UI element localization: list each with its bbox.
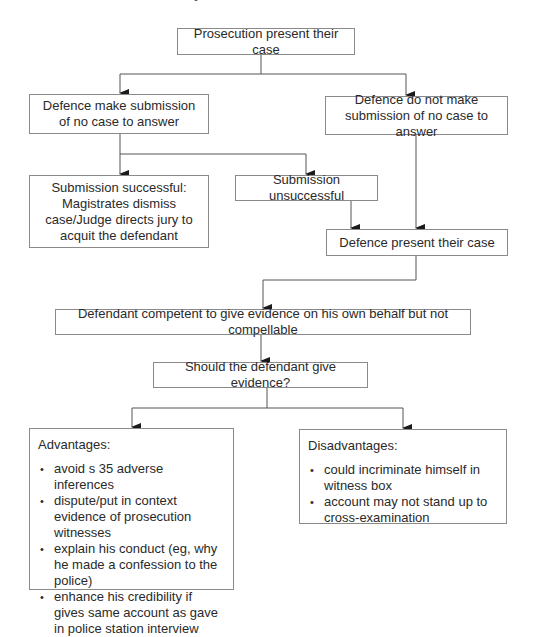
node-advantages: Advantages: avoid s 35 adverse inference… <box>29 428 234 590</box>
node-submission-unsuccessful: Submission unsuccessful <box>235 175 378 201</box>
node-label: Defence present their case <box>339 235 494 251</box>
node-submission-successful: Submission successful: Magistrates dismi… <box>29 175 209 248</box>
node-label: Defendant competent to give evidence on … <box>62 306 464 338</box>
node-label: Should the defendant give evidence? <box>160 359 361 391</box>
node-defendant-competent: Defendant competent to give evidence on … <box>55 309 471 335</box>
disadvantage-item: could incriminate himself in witness box <box>308 462 498 494</box>
node-label: Defence do not make submission of no cas… <box>332 92 501 140</box>
disadvantages-heading: Disadvantages: <box>308 438 498 454</box>
advantage-item: avoid s 35 adverse inferences <box>38 461 225 493</box>
advantages-list: avoid s 35 adverse inferences dispute/pu… <box>38 461 225 637</box>
node-defence-no-submission: Defence do not make submission of no cas… <box>325 96 508 135</box>
disadvantages-list: could incriminate himself in witness box… <box>308 462 498 526</box>
node-should-give-evidence: Should the defendant give evidence? <box>153 362 368 388</box>
node-disadvantages: Disadvantages: could incriminate himself… <box>299 429 507 524</box>
node-label: Submission unsuccessful <box>242 172 371 204</box>
node-defence-make-submission: Defence make submission of no case to an… <box>29 94 209 134</box>
node-label: Defence make submission of no case to an… <box>36 98 202 130</box>
advantages-heading: Advantages: <box>38 437 225 453</box>
advantage-item: dispute/put in context evidence of prose… <box>38 493 225 541</box>
node-prosecution-present-case: Prosecution present their case <box>177 28 355 55</box>
node-defence-present-case: Defence present their case <box>326 229 508 256</box>
advantage-item: enhance his credibility if gives same ac… <box>38 589 225 637</box>
disadvantage-item: account may not stand up to cross-examin… <box>308 494 498 526</box>
node-label: Submission successful: Magistrates dismi… <box>36 180 202 244</box>
node-label: Prosecution present their case <box>184 26 348 58</box>
advantage-item: explain his conduct (eg, why he made a c… <box>38 541 225 589</box>
